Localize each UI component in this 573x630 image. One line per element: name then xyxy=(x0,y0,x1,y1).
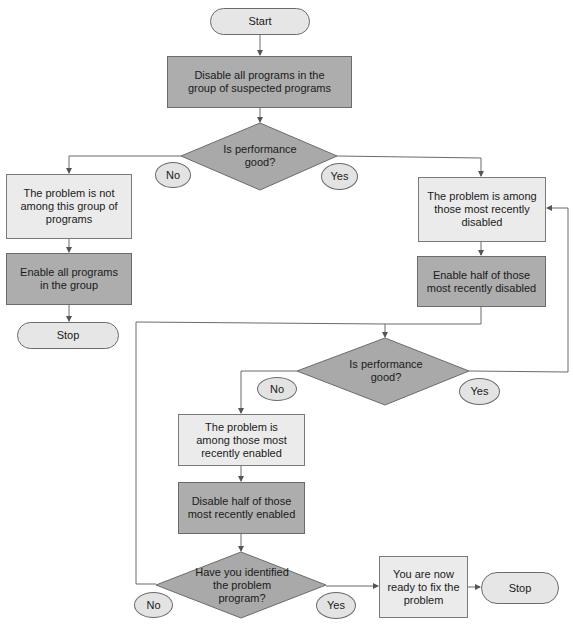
decision-3-yes-badge: Yes xyxy=(316,592,356,619)
decision-3-label: Have you identified the problem program? xyxy=(192,564,292,606)
enable-all-box: Enable all programs in the group xyxy=(6,253,132,305)
decision-1-label: Is performance good? xyxy=(215,140,305,172)
decision-2-yes-badge: Yes xyxy=(459,378,500,405)
decision-2-no-badge: No xyxy=(257,377,297,401)
enable-half-box: Enable half of those most recently disab… xyxy=(417,256,546,307)
decision-1-yes-badge: Yes xyxy=(321,163,358,190)
disable-half-box: Disable half of those most recently enab… xyxy=(178,482,305,534)
decision-2-label: Is performance good? xyxy=(340,355,432,387)
among-disabled-box: The problem is among those most recently… xyxy=(418,177,546,242)
ready-to-fix-box: You are now ready to fix the problem xyxy=(379,556,468,618)
decision-1-no-badge: No xyxy=(155,162,191,188)
decision-3-no-badge: No xyxy=(134,592,173,618)
disable-all-label: Disable all programs in the group of sus… xyxy=(182,69,337,95)
start-terminal: Start xyxy=(210,8,310,35)
among-enabled-box: The problem is among those most recently… xyxy=(178,414,305,466)
start-label: Start xyxy=(248,15,271,28)
left-stop-terminal: Stop xyxy=(17,322,119,349)
not-among-group-box: The problem is not among this group of p… xyxy=(6,174,132,239)
final-stop-terminal: Stop xyxy=(481,572,559,604)
disable-all-box: Disable all programs in the group of sus… xyxy=(167,56,352,108)
